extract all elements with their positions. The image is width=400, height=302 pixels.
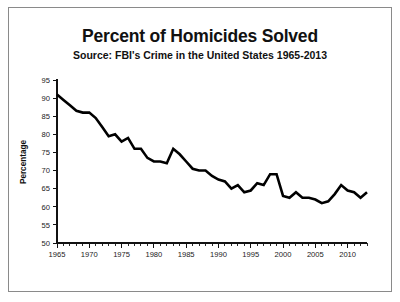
x-tick-label: 1985 [178,250,195,259]
x-tick-label: 1975 [113,250,130,259]
x-tick-label: 1995 [242,250,259,259]
y-tick-label: 60 [42,203,50,212]
y-tick-label: 95 [42,76,50,85]
y-tick-label: 70 [42,166,50,175]
y-axis-label: Percentage [19,139,28,184]
chart-figure: Percent of Homicides Solved Source: FBI'… [0,0,400,302]
y-axis-label-text: Percentage [19,139,28,184]
x-tick-label: 2005 [307,250,324,259]
x-tick-label: 1990 [210,250,227,259]
y-tick-label: 75 [42,148,50,157]
y-tick-label: 55 [42,221,50,230]
x-tick-label: 1980 [145,250,162,259]
plot-area: Percentage 50556065707580859095 19651970… [0,0,400,302]
x-tick-label: 1965 [49,250,66,259]
y-tick-labels: 50556065707580859095 [42,76,50,248]
x-tick-label: 2010 [339,250,356,259]
y-tick-label: 50 [42,239,50,248]
y-tick-label: 90 [42,94,50,103]
y-tick-label: 80 [42,130,50,139]
x-tick-label: 2000 [275,250,292,259]
y-tick-label: 85 [42,112,50,121]
y-tick-label: 65 [42,184,50,193]
x-tick-label: 1970 [81,250,98,259]
x-tick-labels: 1965197019751980198519901995200020052010 [49,250,357,259]
data-series-line [57,94,367,203]
